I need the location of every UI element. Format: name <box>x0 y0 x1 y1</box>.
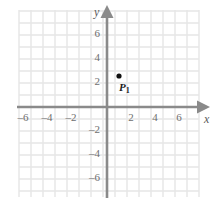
y-tick-label-4: 4 <box>86 52 100 63</box>
y-tick-label-neg4: –4 <box>82 148 100 159</box>
grid-lines-vertical <box>19 10 199 197</box>
y-tick-label-neg2: –2 <box>82 124 100 135</box>
grid-lines-horizontal <box>19 11 199 191</box>
coordinate-grid-canvas <box>0 0 220 207</box>
y-tick-label-2: 2 <box>86 76 100 87</box>
y-axis-label: y <box>94 6 99 18</box>
y-tick-label-6: 6 <box>86 28 100 39</box>
point-label-subscript: 1 <box>126 86 130 95</box>
plotted-point-P1 <box>116 73 121 78</box>
coordinate-plane-figure: –6 –4 –2 2 4 6 6 4 2 –2 –4 –6 y x P1 <box>0 0 220 207</box>
x-tick-label-6: 6 <box>171 112 187 123</box>
x-tick-label-neg2: –2 <box>62 112 80 123</box>
x-axis-label: x <box>204 113 209 125</box>
point-label-name: P <box>119 81 126 93</box>
x-tick-label-2: 2 <box>123 112 139 123</box>
x-tick-label-4: 4 <box>147 112 163 123</box>
y-tick-label-neg6: –6 <box>82 172 100 183</box>
point-marker <box>116 73 121 78</box>
x-tick-label-neg6: –6 <box>14 112 32 123</box>
point-label-P1: P1 <box>119 82 130 93</box>
x-tick-label-neg4: –4 <box>38 112 56 123</box>
